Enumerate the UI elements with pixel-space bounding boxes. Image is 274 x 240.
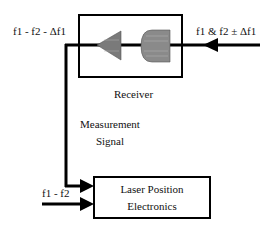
retroreflector-icon: [97, 31, 121, 60]
receiver-label: Receiver: [114, 88, 153, 100]
beam-arrow-icon: [203, 38, 218, 52]
incoming-beam-label: f1 & f2 ± Δf1: [196, 25, 256, 37]
reference-label: f1 - f2: [42, 187, 70, 199]
measurement-signal-label: Measurement Signal: [74, 118, 146, 147]
measurement-label-line1: Measurement: [74, 118, 146, 130]
electronics-label-line2: Electronics: [94, 200, 210, 212]
reference-arrow-icon: [80, 197, 94, 211]
electronics-label-line1: Laser Position: [94, 183, 210, 195]
beam-splitter-icon: [141, 30, 170, 62]
measurement-label-line2: Signal: [74, 135, 146, 147]
electronics-label: Laser Position Electronics: [94, 183, 210, 212]
returned-beam-label: f1 - f2 - Δf1: [13, 25, 66, 37]
measurement-arrow-icon: [80, 179, 94, 193]
